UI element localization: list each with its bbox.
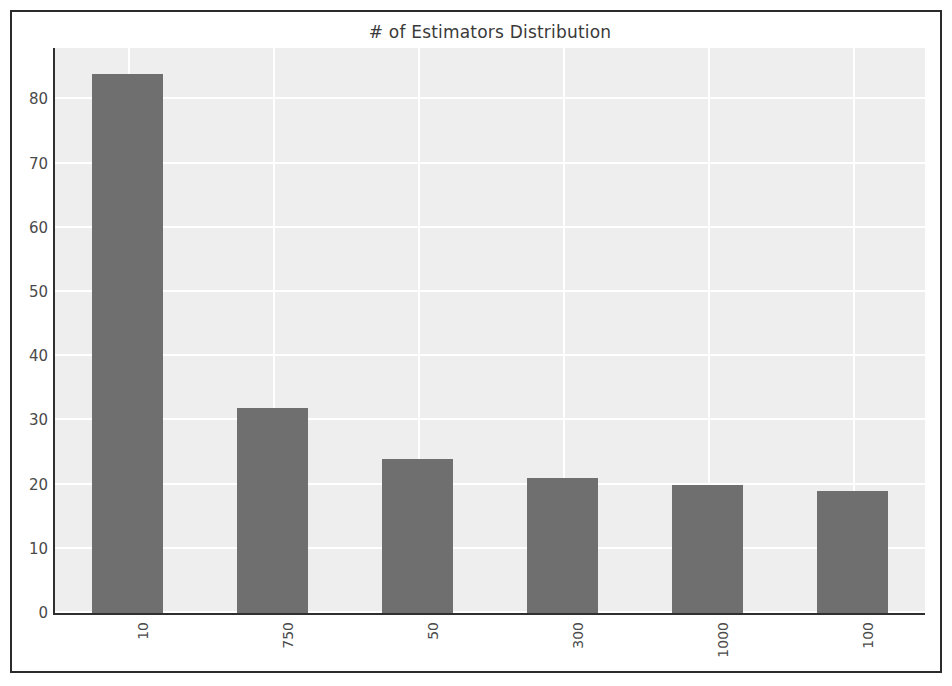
x-axis-tick-labels: 10750503001000100 (0, 0, 952, 686)
x-axis-tick-label: 100 (860, 622, 876, 649)
x-axis-tick-label: 50 (425, 622, 441, 640)
x-axis-tick-label: 300 (570, 622, 586, 649)
chart-screenshot: # of Estimators Distribution 01020304050… (0, 0, 952, 686)
x-axis-tick-label: 750 (280, 622, 296, 649)
x-axis-tick-label: 10 (135, 622, 151, 640)
x-axis-tick-label: 1000 (715, 622, 731, 658)
